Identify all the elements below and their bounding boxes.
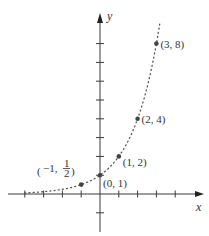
data-point <box>79 182 84 187</box>
label-denominator: 2 <box>64 167 70 179</box>
x-axis-arrow <box>195 191 204 197</box>
paren-right: ) <box>71 165 75 178</box>
data-point <box>98 173 103 178</box>
data-point <box>135 117 140 122</box>
data-point <box>117 154 122 159</box>
y-axis-arrow <box>97 13 103 23</box>
y-axis-label: y <box>106 9 113 23</box>
point-label: (2, 4) <box>142 113 166 126</box>
label-main: −1, <box>43 162 58 174</box>
exponential-graph: (−1,12)(0, 1)(1, 2)(2, 4)(3, 8) x y <box>0 0 209 236</box>
data-point <box>154 41 159 46</box>
paren-left: ( <box>37 165 41 178</box>
point-label-fraction: (−1,12) <box>37 157 75 179</box>
point-label: (1, 2) <box>123 156 147 169</box>
point-label: (3, 8) <box>160 38 184 51</box>
x-axis-label: x <box>195 200 202 214</box>
point-label: (0, 1) <box>103 177 127 190</box>
